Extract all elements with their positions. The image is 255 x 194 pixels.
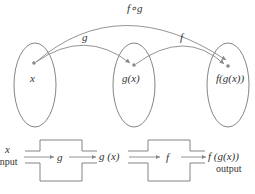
arrow-g xyxy=(36,45,130,63)
label-fgx: f(g(x)) xyxy=(216,73,244,84)
input-caption: input xyxy=(0,157,18,167)
label-f: f xyxy=(180,32,183,43)
domain-set xyxy=(14,43,56,127)
label-gx: g(x) xyxy=(122,73,140,84)
output-value: f (g(x)) xyxy=(208,151,239,162)
label-g: g xyxy=(82,32,88,43)
point-gx xyxy=(132,63,136,67)
output-caption: output xyxy=(216,164,242,174)
point-fgx xyxy=(226,64,230,68)
label-fog: f∘g xyxy=(127,3,143,14)
middle-value: g (x) xyxy=(99,151,119,162)
machine-f-label: f xyxy=(166,152,169,163)
label-x: x xyxy=(30,73,35,84)
input-value: x xyxy=(5,144,10,155)
point-x xyxy=(32,61,36,65)
machine-g-label: g xyxy=(57,152,63,163)
